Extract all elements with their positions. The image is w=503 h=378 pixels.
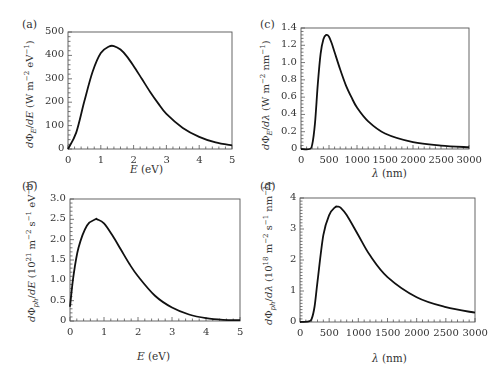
y-tick-label: 3 xyxy=(290,222,296,233)
x-tick-label: 1000 xyxy=(346,327,371,338)
x-tick-label: 1500 xyxy=(375,327,400,338)
y-tick-label: 2 xyxy=(290,253,296,264)
x-tick-label: 2500 xyxy=(433,327,458,338)
y-tick-label: 1 xyxy=(290,284,296,295)
x-tick-label: 3000 xyxy=(463,327,488,338)
plot-frame xyxy=(300,198,475,322)
y-tick-label: 4 xyxy=(290,191,296,202)
x-tick-label: 0 xyxy=(297,327,303,338)
y-tick-label: 0 xyxy=(290,315,296,326)
panel-d-svg xyxy=(0,0,503,378)
data-curve xyxy=(300,206,475,322)
x-tick-label: 500 xyxy=(320,327,339,338)
x-tick-label: 2000 xyxy=(404,327,429,338)
